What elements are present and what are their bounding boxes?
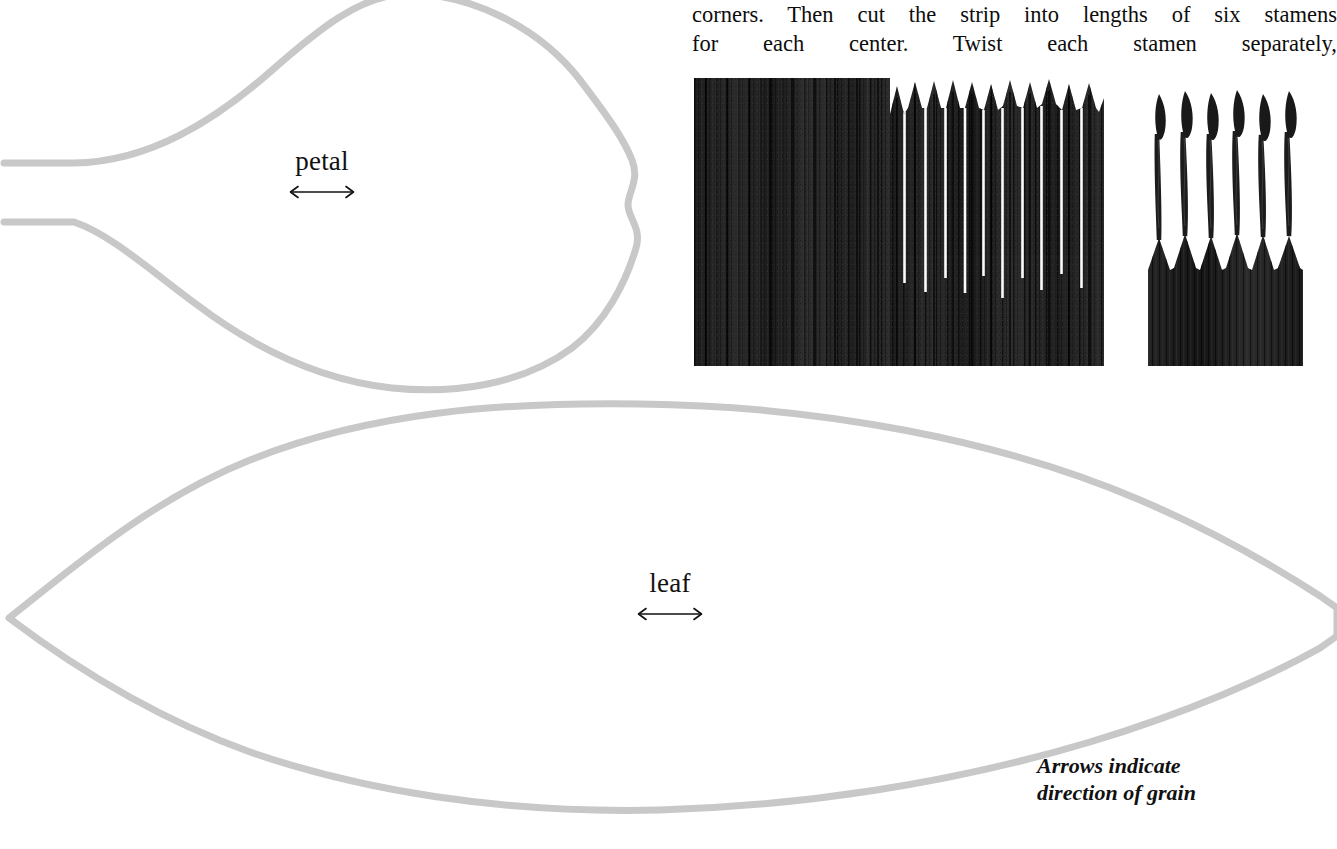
strip-uncut-section [694, 78, 890, 366]
stamen [1207, 93, 1218, 238]
petal-label-group: petal [232, 148, 412, 200]
stamen [1259, 94, 1270, 237]
petal-label: petal [295, 146, 348, 176]
fringed-strip-illustration [694, 78, 1104, 366]
instruction-line-1: corners. Then cut the strip into lengths… [692, 0, 1337, 29]
stamen-group [1155, 90, 1296, 240]
pattern-outlines [0, 0, 1337, 849]
strip-pointed-fringe-section [884, 78, 1104, 366]
caption-line-2: direction of grain [1037, 779, 1196, 806]
stamen-base-block [1148, 233, 1303, 366]
photo-fringed-strip [694, 78, 1104, 366]
stamen [1155, 94, 1165, 240]
leaf-label: leaf [649, 568, 690, 598]
leaf-label-group: leaf [580, 570, 760, 622]
twisted-stamens-illustration [1145, 78, 1308, 366]
instruction-line-2: for each center. Twist each stamen separ… [692, 29, 1337, 58]
pattern-sheet-page: petal leaf corners. Then cut the strip i… [0, 0, 1337, 849]
stamen [1233, 90, 1244, 235]
leaf-grain-arrow-icon [633, 606, 707, 622]
caption-line-1: Arrows indicate [1037, 752, 1196, 779]
grain-direction-caption: Arrows indicate direction of grain [1037, 752, 1196, 806]
instruction-paragraph: corners. Then cut the strip into lengths… [692, 0, 1337, 58]
stamen [1181, 91, 1192, 236]
petal-grain-arrow-icon [285, 184, 359, 200]
stamen [1285, 91, 1296, 236]
photo-twisted-stamens [1145, 78, 1308, 366]
